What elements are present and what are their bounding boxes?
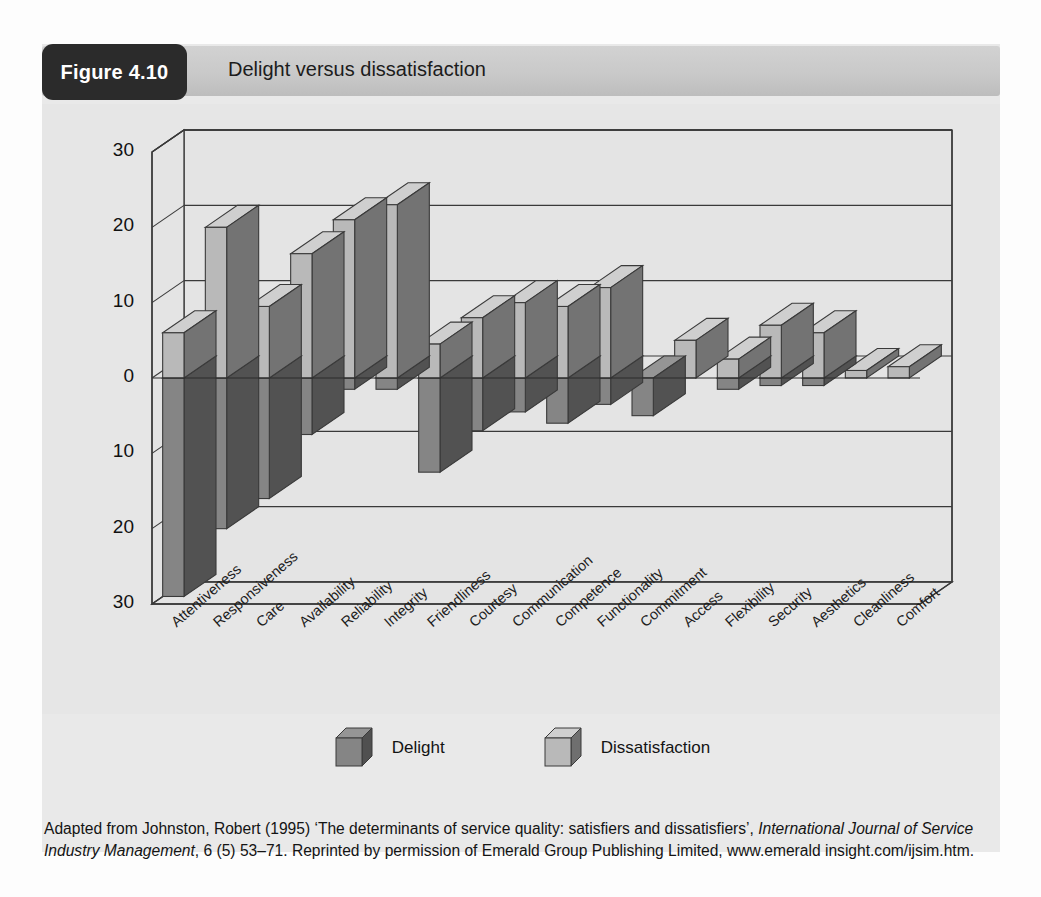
figure-title: Delight versus dissatisfaction	[228, 58, 486, 81]
y-axis-tick-label: 10	[94, 290, 134, 312]
legend-label: Dissatisfaction	[601, 738, 711, 758]
legend-item: Dissatisfaction	[541, 726, 711, 770]
legend-item: Delight	[332, 726, 445, 770]
y-axis-tick-label: 30	[94, 591, 134, 613]
figure-page: Figure 4.10 Delight versus dissatisfacti…	[0, 0, 1041, 897]
chart-container: AttentivenessResponsivenessCareAvailabil…	[42, 104, 1000, 714]
legend-label: Delight	[392, 738, 445, 758]
bar-chart-3d	[42, 104, 1000, 714]
figure-caption: Adapted from Johnston, Robert (1995) ‘Th…	[44, 818, 974, 862]
chart-legend: DelightDissatisfaction	[42, 718, 1000, 778]
caption-line-3: Publishing Limited, www.emerald insight.…	[592, 842, 974, 859]
caption-line-1: Adapted from Johnston, Robert (1995) ‘Th…	[44, 820, 754, 837]
caption-line-2: , 6 (5) 53–71. Reprinted by permission o…	[195, 842, 588, 859]
y-axis-tick-label: 20	[94, 214, 134, 236]
y-axis-tick-label: 30	[94, 139, 134, 161]
y-axis-tick-label: 0	[94, 365, 134, 387]
legend-cube-icon	[541, 726, 585, 770]
y-axis-tick-label: 20	[94, 516, 134, 538]
legend-cube-icon	[332, 726, 376, 770]
figure-number-badge: Figure 4.10	[42, 44, 187, 100]
y-axis-tick-label: 10	[94, 440, 134, 462]
figure-number-label: Figure 4.10	[61, 61, 169, 84]
